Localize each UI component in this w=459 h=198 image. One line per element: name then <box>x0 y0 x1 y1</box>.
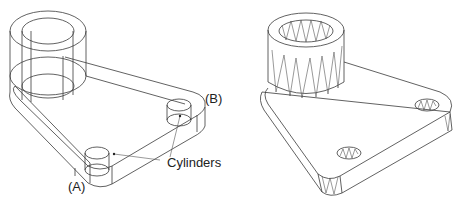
label-b: (B) <box>205 92 222 105</box>
label-cylinders: Cylinders <box>167 156 221 169</box>
label-a: (A) <box>68 180 85 193</box>
